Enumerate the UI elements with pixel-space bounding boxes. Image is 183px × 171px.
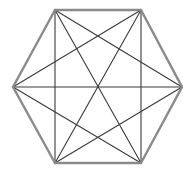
edge-CD xyxy=(141,87,182,163)
edge-BC xyxy=(141,10,182,87)
edge-FA xyxy=(13,10,55,87)
edge-EF xyxy=(13,87,55,163)
diagonal-CE xyxy=(55,87,182,163)
complete-hexagon-diagram xyxy=(0,0,183,171)
diagonal-DF xyxy=(13,87,141,163)
diagonal-lines xyxy=(13,10,182,163)
diagonal-AC xyxy=(55,10,182,87)
diagonal-BF xyxy=(13,10,141,87)
